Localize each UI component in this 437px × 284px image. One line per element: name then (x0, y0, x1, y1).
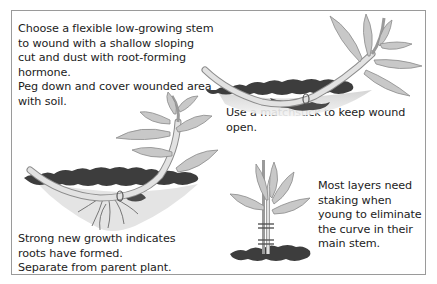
staked-plant-illustration (0, 0, 437, 284)
